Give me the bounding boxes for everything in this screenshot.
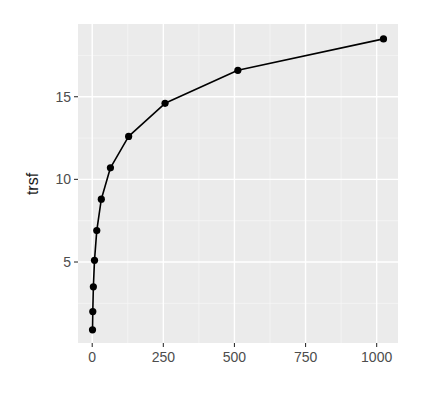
x-tick-label: 250 xyxy=(152,349,176,365)
x-tick-label: 750 xyxy=(294,349,318,365)
y-tick-label: 10 xyxy=(55,171,71,187)
y-tick-label: 5 xyxy=(63,254,71,270)
data-point xyxy=(90,283,97,290)
data-point xyxy=(125,133,132,140)
x-tick-label: 1000 xyxy=(361,349,392,365)
x-tick-label: 500 xyxy=(223,349,247,365)
x-tick-label: 0 xyxy=(88,349,96,365)
x-axis: 02505007501000 xyxy=(88,343,392,365)
data-point xyxy=(93,227,100,234)
data-point xyxy=(161,100,168,107)
data-point xyxy=(98,196,105,203)
data-point xyxy=(380,35,387,42)
y-tick-label: 15 xyxy=(55,89,71,105)
data-point xyxy=(89,326,96,333)
y-axis-title: trsf xyxy=(24,172,41,195)
data-point xyxy=(89,308,96,315)
line-chart: 02505007501000 51015 trsf xyxy=(0,0,423,393)
data-point xyxy=(91,257,98,264)
y-axis: 51015 xyxy=(55,89,78,270)
data-point xyxy=(107,164,114,171)
data-point xyxy=(234,67,241,74)
